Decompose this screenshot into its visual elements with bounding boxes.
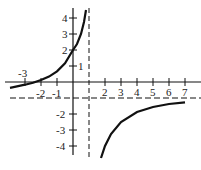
x-label: 2	[102, 86, 108, 98]
x-label: -2	[36, 87, 45, 99]
curve-right-branch	[101, 102, 185, 158]
y-label: -2	[56, 108, 65, 120]
function-graph: -3 -2 -1 2 3 4 5 6 7 4 3 2 1 -2 -3 -4	[0, 0, 201, 170]
x-label: -1	[52, 87, 61, 99]
x-label: 7	[182, 86, 188, 98]
y-label: 3	[62, 28, 68, 40]
y-label: 4	[62, 12, 68, 24]
x-label: 4	[134, 86, 140, 98]
y-label: -3	[56, 124, 66, 136]
y-label: 2	[62, 44, 68, 56]
x-label: 6	[166, 86, 172, 98]
x-label: 3	[118, 86, 124, 98]
x-label: 5	[150, 86, 156, 98]
y-label: 1	[78, 60, 84, 72]
y-label: -4	[56, 140, 66, 152]
x-label: -3	[18, 67, 28, 79]
